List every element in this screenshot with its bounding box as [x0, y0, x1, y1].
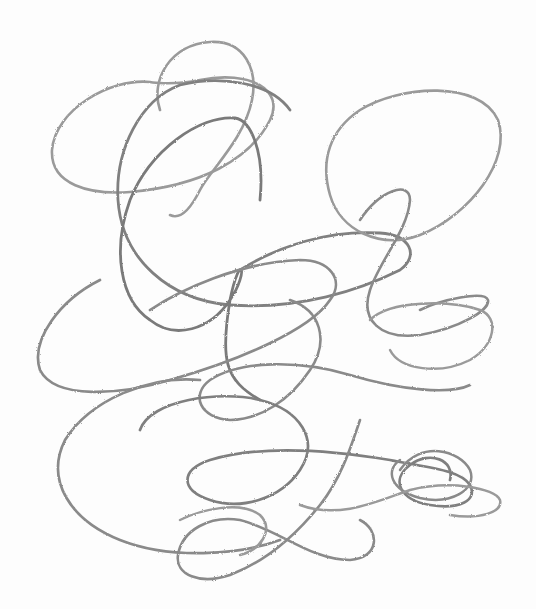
scribble-drawing	[0, 0, 536, 609]
pencil-strokes	[38, 42, 501, 579]
scribble-svg	[0, 0, 536, 609]
